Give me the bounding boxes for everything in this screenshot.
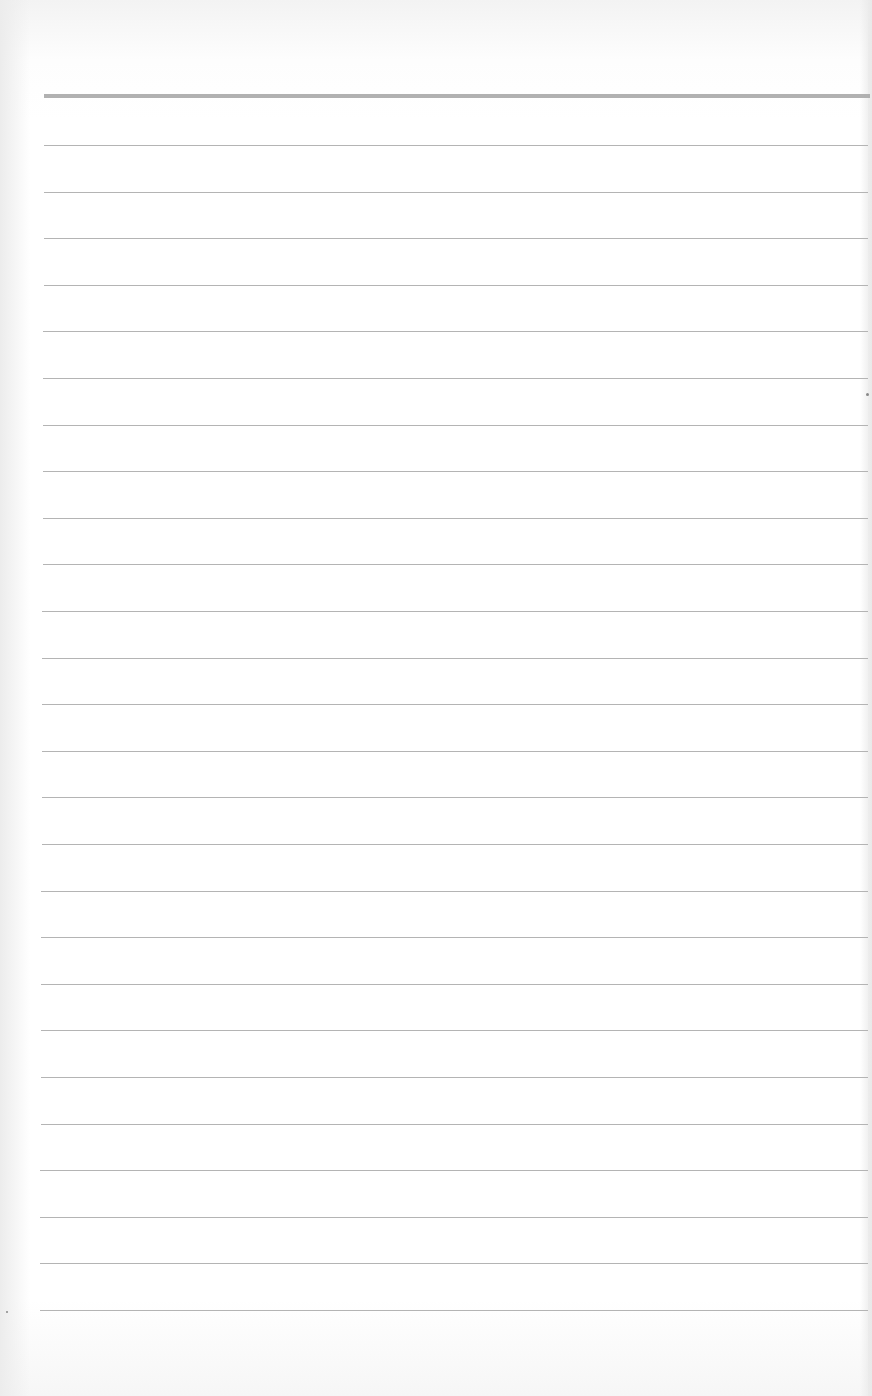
ruled-line [40, 1263, 868, 1264]
ruled-line [44, 192, 868, 193]
ruled-line [40, 1170, 868, 1171]
ruled-line [42, 844, 868, 845]
ruled-line [42, 658, 868, 659]
ruled-line [43, 471, 868, 472]
paper-left-shadow [0, 0, 30, 1396]
ruled-line [41, 1030, 868, 1031]
ruled-line [41, 984, 868, 985]
ruled-line [43, 425, 868, 426]
paper-speck [866, 393, 869, 396]
ruled-line [44, 145, 868, 146]
ruled-line [42, 611, 868, 612]
ruled-line [43, 378, 868, 379]
ruled-line [43, 331, 868, 332]
ruled-line [42, 751, 868, 752]
ruled-line [40, 1217, 868, 1218]
ruled-line [41, 937, 868, 938]
ruled-line [43, 518, 868, 519]
paper-speck [6, 1311, 8, 1313]
lined-paper-sheet [0, 0, 868, 1396]
ruled-line [44, 285, 868, 286]
ruled-line [41, 891, 868, 892]
ruled-line [42, 797, 868, 798]
ruled-line [44, 238, 868, 239]
paper-right-edge [860, 0, 872, 1396]
header-rule [44, 94, 870, 98]
ruled-line [42, 704, 868, 705]
ruled-line [43, 564, 868, 565]
ruled-line [41, 1077, 868, 1078]
ruled-line [41, 1124, 868, 1125]
ruled-line [40, 1310, 868, 1311]
